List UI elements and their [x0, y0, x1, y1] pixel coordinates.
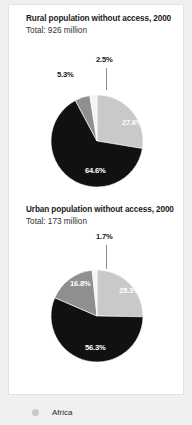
chart-title-rural: Rural population without access, 2000: [26, 14, 171, 23]
slice-label-rural-1: 64.6%: [85, 166, 106, 175]
chart-title-urban: Urban population without access, 2000: [26, 205, 174, 214]
chart-subtitle-urban: Total: 173 million: [26, 217, 87, 226]
africa-legend-dot: [32, 409, 39, 416]
leader-line-urban-3: [106, 245, 107, 269]
leader-line-rural-3: [106, 68, 107, 90]
slice-label-urban-2: 16.8%: [70, 279, 91, 288]
legend-label-africa: Africa: [52, 408, 72, 417]
slice-label-urban-3: 1.7%: [96, 232, 113, 241]
slice-label-rural-2: 5.3%: [57, 70, 74, 79]
slice-label-rural-3: 2.5%: [96, 55, 113, 64]
chart-subtitle-rural: Total: 926 million: [26, 26, 87, 35]
slice-label-urban-0: 25.3%: [119, 286, 140, 295]
slice-label-urban-1: 56.3%: [85, 343, 106, 352]
slice-label-rural-0: 27.6%: [122, 118, 143, 127]
charts-card: Rural population without access, 2000 To…: [8, 4, 184, 395]
chart-legend: Africa: [8, 404, 184, 420]
